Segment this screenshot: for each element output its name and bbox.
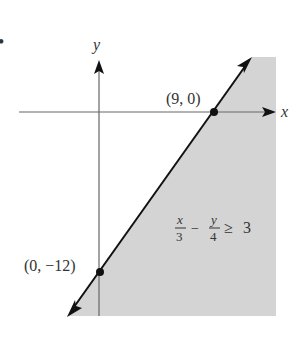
frac2-numerator: y [209, 212, 217, 227]
point-9-0 [210, 108, 218, 116]
minus-sign: − [191, 221, 199, 236]
rhs-value: 3 [243, 219, 251, 236]
geq-sign: ≥ [224, 219, 233, 236]
frac1-denominator: 3 [176, 229, 183, 244]
point-0-neg12 [96, 268, 104, 276]
y-axis-label: y [91, 36, 101, 54]
point-label-9-0: (9, 0) [166, 90, 201, 108]
frac1-numerator: x [176, 212, 183, 227]
frac2-denominator: 4 [210, 229, 217, 244]
x-axis-label: x [280, 103, 288, 120]
bullet: • [0, 32, 4, 52]
graph-figure: • y x (9, 0) (0, −12) x 3 − y 4 ≥ 3 [0, 0, 302, 342]
point-label-0-neg12: (0, −12) [24, 257, 76, 275]
